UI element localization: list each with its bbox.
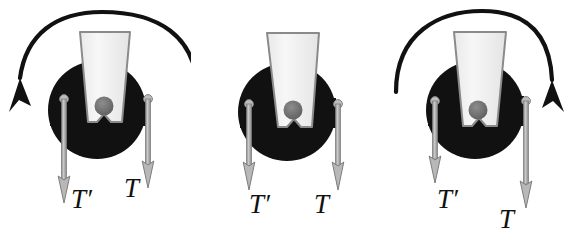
tension-label-t-prime: T′	[71, 184, 93, 214]
tension-label-t-prime: T′	[437, 184, 459, 214]
axle-dot	[95, 97, 114, 116]
panel-ccw-rotation: T′ T	[0, 0, 191, 248]
physics-figure: T′ T	[0, 0, 573, 248]
tension-label-t: T	[124, 173, 141, 203]
axle-dot	[284, 101, 303, 120]
panel-no-rotation: T′ T	[191, 0, 382, 248]
tension-label-t: T	[499, 204, 516, 234]
axle-dot	[469, 101, 488, 120]
panel-cw-rotation: T′ T	[382, 0, 573, 248]
tension-label-t: T	[314, 189, 331, 219]
tension-label-t-prime: T′	[249, 189, 271, 219]
